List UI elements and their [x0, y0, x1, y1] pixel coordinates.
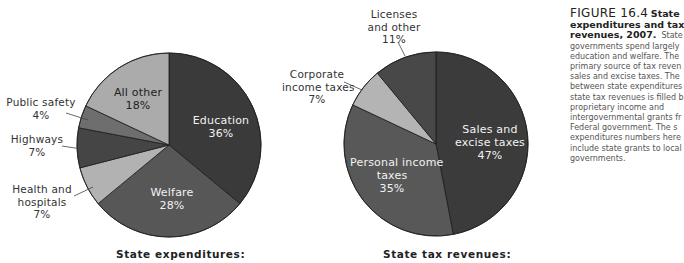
figure-title-3: revenues, 2007. [570, 29, 656, 40]
label-welfare: Welfare 28% [142, 186, 202, 212]
label-sales-excise: Sales and excise taxes 47% [450, 123, 530, 162]
label-health-hospitals: Health and hospitals 7% [12, 183, 72, 221]
figure-number: FIGURE 16.4 [570, 6, 648, 20]
caption-state-expenditures: State expenditures: [116, 248, 245, 260]
caption-state-tax-revenues: State tax revenues: [383, 248, 511, 260]
caption-line: proprietary income and [570, 103, 660, 113]
label-all-other: All other 18% [108, 86, 168, 112]
caption-line: expenditures numbers here [570, 133, 660, 143]
label-education: Education 36% [188, 114, 254, 140]
figure-caption: FIGURE 16.4 State expenditures and tax r… [570, 8, 660, 164]
caption-line: include state grants to local [570, 144, 660, 154]
label-corporate-income: Corporate income taxes 7% [282, 68, 352, 106]
caption-line: sales and excise taxes. The [570, 72, 660, 82]
caption-line: intergovernmental grants fr [570, 113, 660, 123]
label-public-safety: Public safety 4% [4, 96, 78, 121]
label-highways: Highways 7% [10, 133, 64, 158]
label-licenses-other: Licenses and other 11% [364, 8, 424, 46]
caption-line: between state expenditures [570, 82, 660, 92]
caption-line: primary source of tax reven [570, 62, 660, 72]
figure-title-1: State [651, 8, 680, 19]
caption-line: state tax revenues is filled b [570, 93, 660, 103]
caption-line: governments. [570, 154, 660, 164]
caption-line: education and welfare. The [570, 52, 660, 62]
caption-line: Federal government. The s [570, 123, 660, 133]
label-personal-income: Personal income taxes 35% [350, 156, 434, 195]
caption-line: governments spend largely [570, 42, 660, 52]
